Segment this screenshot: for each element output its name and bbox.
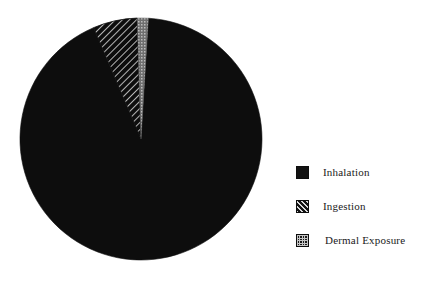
hatched-swatch xyxy=(296,200,309,213)
legend-label-dermal-exposure: Dermal Exposure xyxy=(325,234,405,246)
legend-item-dermal-exposure: Dermal Exposure xyxy=(296,223,421,257)
solid-black-swatch xyxy=(296,166,309,179)
pie-chart-figure: Inhalation Ingestion Dermal Exposure xyxy=(0,0,421,284)
chart-legend: Inhalation Ingestion Dermal Exposure xyxy=(296,155,421,257)
legend-label-inhalation: Inhalation xyxy=(323,166,370,178)
pie-chart-svg xyxy=(0,0,290,284)
chart-plot-area xyxy=(0,0,290,284)
legend-item-inhalation: Inhalation xyxy=(296,155,421,189)
legend-label-ingestion: Ingestion xyxy=(323,200,366,212)
checkered-swatch xyxy=(296,234,309,247)
legend-item-ingestion: Ingestion xyxy=(296,189,421,223)
